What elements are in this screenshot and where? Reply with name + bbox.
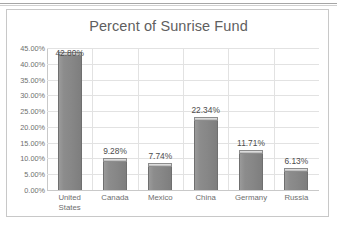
x-axis-label-line: Mexico: [148, 193, 173, 203]
plot-area[interactable]: 42.80%9.28%7.74%22.34%11.71%6.13%: [47, 48, 319, 190]
bar-cap-highlight: [285, 169, 307, 170]
bar-top-cap: [194, 117, 218, 121]
y-axis-tick-labels: 0.00%5.00%10.00%15.00%20.00%25.00%30.00%…: [7, 48, 45, 190]
chart-container[interactable]: Percent of Sunrise Fund 0.00%5.00%10.00%…: [6, 9, 329, 217]
gridline-x: [274, 48, 275, 190]
y-axis-tick-label: 40.00%: [7, 59, 45, 68]
bar-top-cap: [239, 150, 263, 154]
x-axis-category-labels: UnitedStatesCanadaMexicoChinaGermanyRuss…: [47, 193, 319, 217]
bar-canada[interactable]: [103, 161, 127, 190]
top-divider-rule-secondary: [0, 5, 337, 6]
data-label: 22.34%: [191, 105, 219, 115]
x-axis-label-line: Russia: [284, 193, 308, 203]
bar-united-states[interactable]: [58, 55, 82, 190]
y-axis-tick-label: 45.00%: [7, 44, 45, 53]
x-axis-label-line: States: [58, 203, 81, 213]
bar-russia[interactable]: [284, 171, 308, 190]
x-axis-label-china: China: [195, 193, 215, 203]
bar-cap-highlight: [104, 159, 126, 160]
bar-china[interactable]: [194, 120, 218, 190]
y-axis-tick-label: 25.00%: [7, 107, 45, 116]
bar-top-cap: [148, 163, 172, 167]
y-axis-tick-label: 0.00%: [7, 186, 45, 195]
gridline-x: [183, 48, 184, 190]
gridline-x: [92, 48, 93, 190]
x-axis-label-canada: Canada: [101, 193, 128, 203]
x-axis-label-united-states: UnitedStates: [58, 193, 81, 212]
bar-top-cap: [284, 168, 308, 172]
chart-title: Percent of Sunrise Fund: [7, 18, 330, 34]
y-axis-tick-label: 15.00%: [7, 138, 45, 147]
bar-top-cap: [103, 158, 127, 162]
x-axis-label-line: Germany: [235, 193, 267, 203]
y-axis-tick-label: 5.00%: [7, 170, 45, 179]
data-label: 11.71%: [237, 138, 265, 148]
x-axis-label-germany: Germany: [235, 193, 267, 203]
gridline-y: [47, 190, 319, 191]
bar-cap-highlight: [195, 118, 217, 119]
data-label: 6.13%: [284, 156, 308, 166]
gridline-x: [228, 48, 229, 190]
x-axis-label-russia: Russia: [284, 193, 308, 203]
y-axis-tick-label: 20.00%: [7, 122, 45, 131]
y-axis-tick-label: 10.00%: [7, 154, 45, 163]
data-label: 42.80%: [55, 48, 83, 58]
x-axis-label-line: Canada: [101, 193, 128, 203]
gridline-x: [138, 48, 139, 190]
top-divider-rule: [0, 3, 337, 4]
x-axis-label-line: United: [58, 193, 81, 203]
data-label: 9.28%: [103, 146, 127, 156]
bar-cap-highlight: [240, 151, 262, 152]
bar-cap-highlight: [149, 164, 171, 165]
y-axis-line: [47, 48, 48, 190]
bar-germany[interactable]: [239, 153, 263, 190]
chart-screenshot: Percent of Sunrise Fund 0.00%5.00%10.00%…: [0, 0, 337, 226]
y-axis-tick-label: 30.00%: [7, 91, 45, 100]
x-axis-label-line: China: [195, 193, 215, 203]
y-axis-tick-label: 35.00%: [7, 75, 45, 84]
bar-mexico[interactable]: [148, 166, 172, 190]
x-axis-label-mexico: Mexico: [148, 193, 173, 203]
data-label: 7.74%: [148, 151, 172, 161]
